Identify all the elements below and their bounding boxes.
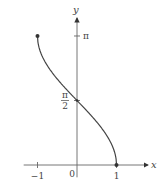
x-tick-label: −1 — [31, 171, 44, 181]
y-tick-label-numerator: π — [62, 90, 68, 100]
chart: xy−110π2π — [0, 0, 163, 193]
curve-point — [76, 99, 79, 102]
x-tick-label: 1 — [114, 171, 120, 181]
origin-label: 0 — [69, 169, 75, 179]
x-axis-label: x — [151, 159, 157, 170]
y-tick-label-denominator: 2 — [62, 101, 68, 111]
y-axis-label: y — [72, 4, 79, 15]
curve-point — [36, 34, 40, 38]
y-tick-label: π — [83, 31, 89, 41]
curve-point — [115, 163, 119, 167]
